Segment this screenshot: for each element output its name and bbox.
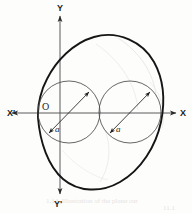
origin-label: O — [42, 101, 49, 112]
axis-group — [12, 16, 176, 194]
figure-canvas: 1.14. Illustration of the plane cur 11.1… — [0, 0, 192, 214]
bleed-page-text: 11.1 — [163, 204, 175, 212]
cardioid-figure: 1.14. Illustration of the plane cur 11.1… — [0, 0, 192, 214]
right-diameter-label: a — [116, 124, 121, 134]
x-negative-axis-label: X' — [7, 108, 15, 118]
label-group: X' X Y Y' O a a — [7, 3, 186, 209]
cardioid-curve — [38, 35, 163, 190]
left-diameter-label: a — [55, 124, 60, 134]
y-positive-axis-label: Y — [57, 3, 63, 13]
y-negative-axis-label: Y' — [54, 199, 62, 209]
x-positive-axis-label: X — [180, 108, 186, 118]
